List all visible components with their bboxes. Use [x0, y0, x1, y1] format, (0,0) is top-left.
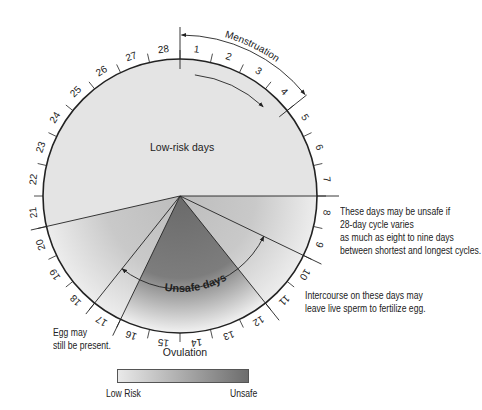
day-number: 7	[321, 176, 333, 183]
day-number: 5	[299, 112, 312, 123]
day-tick	[66, 281, 73, 287]
day-tick	[89, 82, 95, 89]
intercourse-note: Intercourse on these days may leave live…	[305, 289, 426, 315]
day-tick	[148, 330, 150, 339]
day-tick	[117, 64, 121, 72]
day-number: 26	[94, 63, 110, 78]
day-number: 16	[124, 328, 139, 342]
legend-low-risk-label: Low Risk	[106, 387, 141, 399]
cycle-variation-note: These days may be unsafe if 28-day cycle…	[340, 205, 481, 257]
day-tick	[48, 255, 56, 259]
day-tick	[287, 281, 294, 287]
day-number: 6	[313, 143, 325, 152]
day-number: 1	[193, 43, 200, 55]
day-number: 9	[313, 240, 325, 249]
day-number: 8	[321, 209, 333, 216]
note-line: Egg may	[53, 326, 111, 339]
note-line: 28-day cycle varies	[340, 218, 481, 231]
day-tick	[314, 164, 323, 166]
day-tick	[48, 133, 56, 137]
day-number: 12	[251, 314, 267, 329]
day-number: 3	[253, 65, 264, 78]
day-number: 23	[33, 140, 47, 155]
day-number: 18	[67, 292, 83, 308]
day-number: 11	[277, 293, 292, 308]
note-line: still be present.	[53, 339, 111, 352]
day-number: 21	[27, 206, 39, 219]
day-tick	[38, 164, 47, 166]
day-number: 22	[27, 173, 39, 186]
day-tick	[239, 64, 243, 72]
low-risk-days-label: Low-risk days	[150, 141, 214, 153]
day-number: 25	[68, 83, 84, 99]
day-tick	[66, 105, 73, 111]
day-tick	[314, 226, 323, 228]
day-tick	[239, 319, 243, 327]
day-number: 28	[157, 43, 170, 55]
day-number: 4	[279, 86, 291, 98]
day-tick	[148, 54, 150, 63]
day-number: 19	[47, 267, 62, 283]
day-tick	[210, 54, 212, 63]
egg-note: Egg may still be present.	[53, 326, 111, 352]
day-tick	[265, 82, 271, 89]
note-line: Intercourse on these days may	[305, 289, 426, 302]
day-tick	[210, 330, 212, 339]
ovulation-label: Ovulation	[163, 346, 208, 358]
note-line: leave live sperm to fertilize egg.	[305, 302, 426, 315]
day-number: 27	[124, 49, 139, 63]
legend-unsafe-label: Unsafe	[230, 387, 257, 399]
risk-gradient-legend	[117, 369, 249, 383]
day-number: 2	[224, 50, 233, 62]
note-line: between shortest and longest cycles.	[340, 244, 481, 257]
day-tick	[303, 133, 311, 137]
menstruation-label: Menstruation	[224, 28, 282, 63]
note-line: as much as eight to nine days	[340, 231, 481, 244]
day-number: 24	[47, 109, 62, 125]
day-number: 20	[33, 237, 47, 252]
day-number: 10	[297, 267, 312, 283]
day-number: 13	[221, 329, 236, 343]
note-line: These days may be unsafe if	[340, 205, 481, 218]
